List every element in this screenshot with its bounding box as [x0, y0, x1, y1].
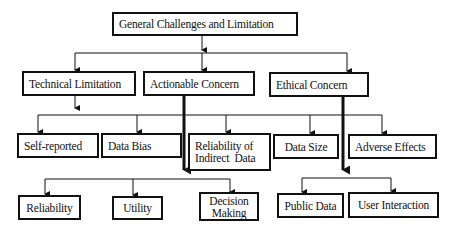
- node-self-reported: Self-reported: [17, 133, 99, 158]
- node-label: Self-reported: [24, 140, 82, 152]
- node-label: Technical Limitation: [29, 78, 121, 90]
- node-user-interaction: User Interaction: [348, 192, 439, 218]
- root-connector: [75, 35, 347, 71]
- node-data-bias: Data Bias: [101, 133, 182, 158]
- node-label: Decision Making: [207, 195, 251, 219]
- node-label: User Interaction: [358, 199, 429, 211]
- node-label: Public Data: [285, 200, 337, 212]
- node-label: Reliability of Indirect Data: [195, 140, 264, 164]
- node-public-data: Public Data: [277, 193, 344, 218]
- node-technical-limitation: Technical Limitation: [22, 71, 136, 96]
- node-label: Ethical Concern: [276, 79, 347, 91]
- node-decision-making: Decision Making: [199, 192, 259, 221]
- node-utility: Utility: [112, 196, 163, 220]
- node-reliability: Reliability: [18, 195, 81, 220]
- node-label: Actionable Concern: [150, 78, 239, 90]
- node-label: Data Size: [285, 141, 328, 153]
- challenges-diagram: General Challenges and Limitation Techni…: [0, 0, 454, 232]
- node-ethical-concern: Ethical Concern: [269, 72, 369, 97]
- node-label: General Challenges and Limitation: [119, 18, 274, 30]
- node-reliability-of-indirect-data: Reliability of Indirect Data: [188, 133, 271, 171]
- node-general-challenges: General Challenges and Limitation: [112, 12, 298, 36]
- node-label: Reliability: [26, 202, 72, 214]
- technical-connector: [38, 95, 382, 133]
- node-data-size: Data Size: [273, 134, 339, 159]
- node-label: Utility: [123, 202, 152, 214]
- node-label: Adverse Effects: [355, 141, 426, 153]
- node-actionable-concern: Actionable Concern: [143, 71, 255, 96]
- node-adverse-effects: Adverse Effects: [348, 134, 437, 159]
- node-label: Data Bias: [108, 140, 151, 152]
